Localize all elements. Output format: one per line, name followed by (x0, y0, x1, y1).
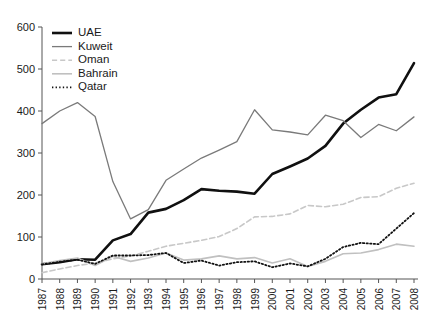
y-tick-label: 100 (17, 231, 35, 243)
series-line-qatar (42, 213, 414, 267)
y-tick-label: 600 (17, 21, 35, 33)
x-tick-label: 2000 (267, 288, 278, 311)
x-tick-label: 2004 (338, 288, 349, 311)
line-chart: 0100200300400500600 19871988198919901991… (0, 0, 439, 324)
y-tick-label: 200 (17, 189, 35, 201)
x-tick-label: 1994 (161, 288, 172, 311)
x-tick-label: 1988 (55, 288, 66, 311)
x-tick-label: 2008 (409, 288, 420, 311)
x-tick-label: 1993 (143, 288, 154, 311)
series-layer (42, 63, 414, 273)
y-tick-label: 500 (17, 63, 35, 75)
x-tick-label: 2007 (391, 288, 402, 311)
x-tick-label: 1992 (126, 288, 137, 311)
legend-label-oman: Oman (78, 53, 109, 65)
x-tick-label: 1990 (90, 288, 101, 311)
x-tick-label: 2001 (285, 288, 296, 311)
x-tick-label: 1995 (179, 288, 190, 311)
x-tick-label: 2005 (356, 288, 367, 311)
y-tick-label: 400 (17, 105, 35, 117)
legend-label-qatar: Qatar (78, 80, 107, 92)
x-tick-label: 1998 (232, 288, 243, 311)
legend-label-kuweit: Kuweit (78, 40, 113, 52)
x-axis: 1987198819891990199119921993199419951996… (37, 279, 420, 310)
x-tick-label: 2003 (320, 288, 331, 311)
series-line-uae (42, 63, 414, 264)
series-line-kuweit (42, 103, 414, 219)
chart-legend: UAEKuweitOmanBahrainQatar (52, 26, 118, 92)
x-tick-label: 1996 (196, 288, 207, 311)
x-tick-label: 1989 (72, 288, 83, 311)
y-tick-label: 0 (29, 273, 35, 285)
series-line-oman (42, 183, 414, 272)
x-tick-label: 1991 (108, 288, 119, 311)
y-tick-label: 300 (17, 147, 35, 159)
legend-label-uae: UAE (78, 26, 102, 38)
chart-canvas: 0100200300400500600 19871988198919901991… (0, 0, 439, 324)
x-tick-label: 1987 (37, 288, 48, 311)
x-tick-label: 1997 (214, 288, 225, 311)
legend-label-bahrain: Bahrain (78, 67, 118, 79)
y-axis: 0100200300400500600 (17, 21, 42, 285)
x-tick-label: 2006 (374, 288, 385, 311)
x-tick-label: 2002 (303, 288, 314, 311)
x-tick-label: 1999 (250, 288, 261, 311)
